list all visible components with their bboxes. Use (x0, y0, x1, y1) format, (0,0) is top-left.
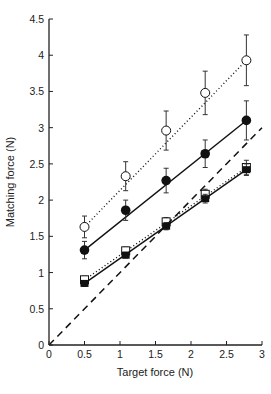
series-line (49, 128, 262, 345)
y-tick-label: 3 (38, 122, 44, 134)
filled-circle-marker (161, 176, 171, 186)
series-line (85, 60, 247, 227)
filled-square-marker (242, 166, 250, 173)
x-tick-label: 3 (259, 348, 265, 360)
filled-square-marker (201, 195, 209, 202)
x-tick-label: 2 (188, 348, 194, 360)
y-tick-label: 2 (38, 194, 44, 206)
y-tick-label: 0.5 (29, 303, 44, 315)
x-tick-label: 1 (117, 348, 123, 360)
y-tick-label: 4 (38, 49, 44, 61)
y-tick-label: 1.5 (29, 230, 44, 242)
filled-square-marker (81, 280, 89, 287)
y-tick-label: 3.5 (29, 85, 44, 97)
filled-circle-marker (200, 149, 210, 159)
y-tick-label: 1 (38, 267, 44, 279)
filled-square-marker (162, 223, 170, 230)
filled-square-marker (122, 252, 130, 259)
x-tick-label: 0 (46, 348, 52, 360)
chart: 00.511.522.5300.511.522.533.544.5 Target… (0, 0, 271, 394)
x-tick-label: 0.5 (77, 348, 92, 360)
plot-area (49, 35, 262, 345)
x-tick-label: 2.5 (219, 348, 234, 360)
y-tick-label: 2.5 (29, 158, 44, 170)
open-circle-marker (242, 56, 251, 65)
open-circle-marker (162, 126, 171, 135)
y-tick-label: 4.5 (29, 13, 44, 25)
y-axis-label: Matching force (N) (4, 137, 16, 227)
axes: 00.511.522.5300.511.522.533.544.5 (29, 13, 265, 360)
filled-circle-marker (80, 245, 90, 255)
open-circle-marker (121, 172, 130, 181)
y-tick-label: 0 (38, 339, 44, 351)
x-axis-label: Target force (N) (117, 366, 193, 378)
x-tick-label: 1.5 (148, 348, 163, 360)
filled-circle-marker (121, 205, 131, 215)
open-circle-marker (80, 222, 89, 231)
filled-circle-marker (242, 116, 252, 126)
open-circle-marker (201, 88, 210, 97)
